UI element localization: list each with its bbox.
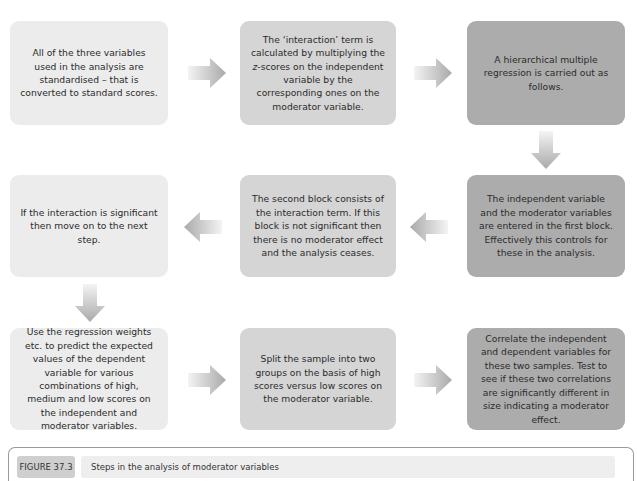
step-5-box: The second block consists of the interac… (240, 175, 396, 277)
arrow-right-icon (188, 58, 226, 88)
step-4-box: The independent variable and the moderat… (467, 175, 625, 277)
step-6-box: If the interaction is significant then m… (10, 175, 168, 277)
step-2-box: The ‘interaction’ term is calculated by … (240, 21, 396, 125)
figure-caption: FIGURE 37.3 Steps in the analysis of mod… (8, 447, 634, 481)
arrow-right-icon (414, 58, 452, 88)
arrow-down-icon (75, 284, 105, 322)
step-7-box: Use the regression weights etc. to predi… (10, 328, 168, 430)
figure-number: FIGURE 37.3 (17, 456, 75, 478)
arrow-down-icon (531, 131, 561, 169)
step-6-text: If the interaction is significant then m… (20, 206, 158, 246)
step-9-box: Correlate the independent and dependent … (467, 328, 625, 430)
step-4-text: The independent variable and the moderat… (477, 192, 615, 259)
step-1-box: All of the three variables used in the a… (10, 21, 168, 125)
step-3-text: A hierarchical multiple regression is ca… (477, 53, 615, 93)
arrow-left-icon (184, 212, 222, 242)
step-7-text: Use the regression weights etc. to predi… (20, 325, 158, 432)
step-8-text: Split the sample into two groups on the … (250, 352, 386, 406)
figure-title: Steps in the analysis of moderator varia… (81, 456, 615, 478)
step-9-text: Correlate the independent and dependent … (477, 332, 615, 426)
arrow-left-icon (410, 212, 448, 242)
step-8-box: Split the sample into two groups on the … (240, 328, 396, 430)
arrow-right-icon (414, 365, 452, 395)
step-2-text: The ‘interaction’ term is calculated by … (250, 33, 386, 113)
step-3-box: A hierarchical multiple regression is ca… (467, 21, 625, 125)
step-1-text: All of the three variables used in the a… (20, 46, 158, 100)
step-5-text: The second block consists of the interac… (250, 192, 386, 259)
arrow-right-icon (188, 365, 226, 395)
